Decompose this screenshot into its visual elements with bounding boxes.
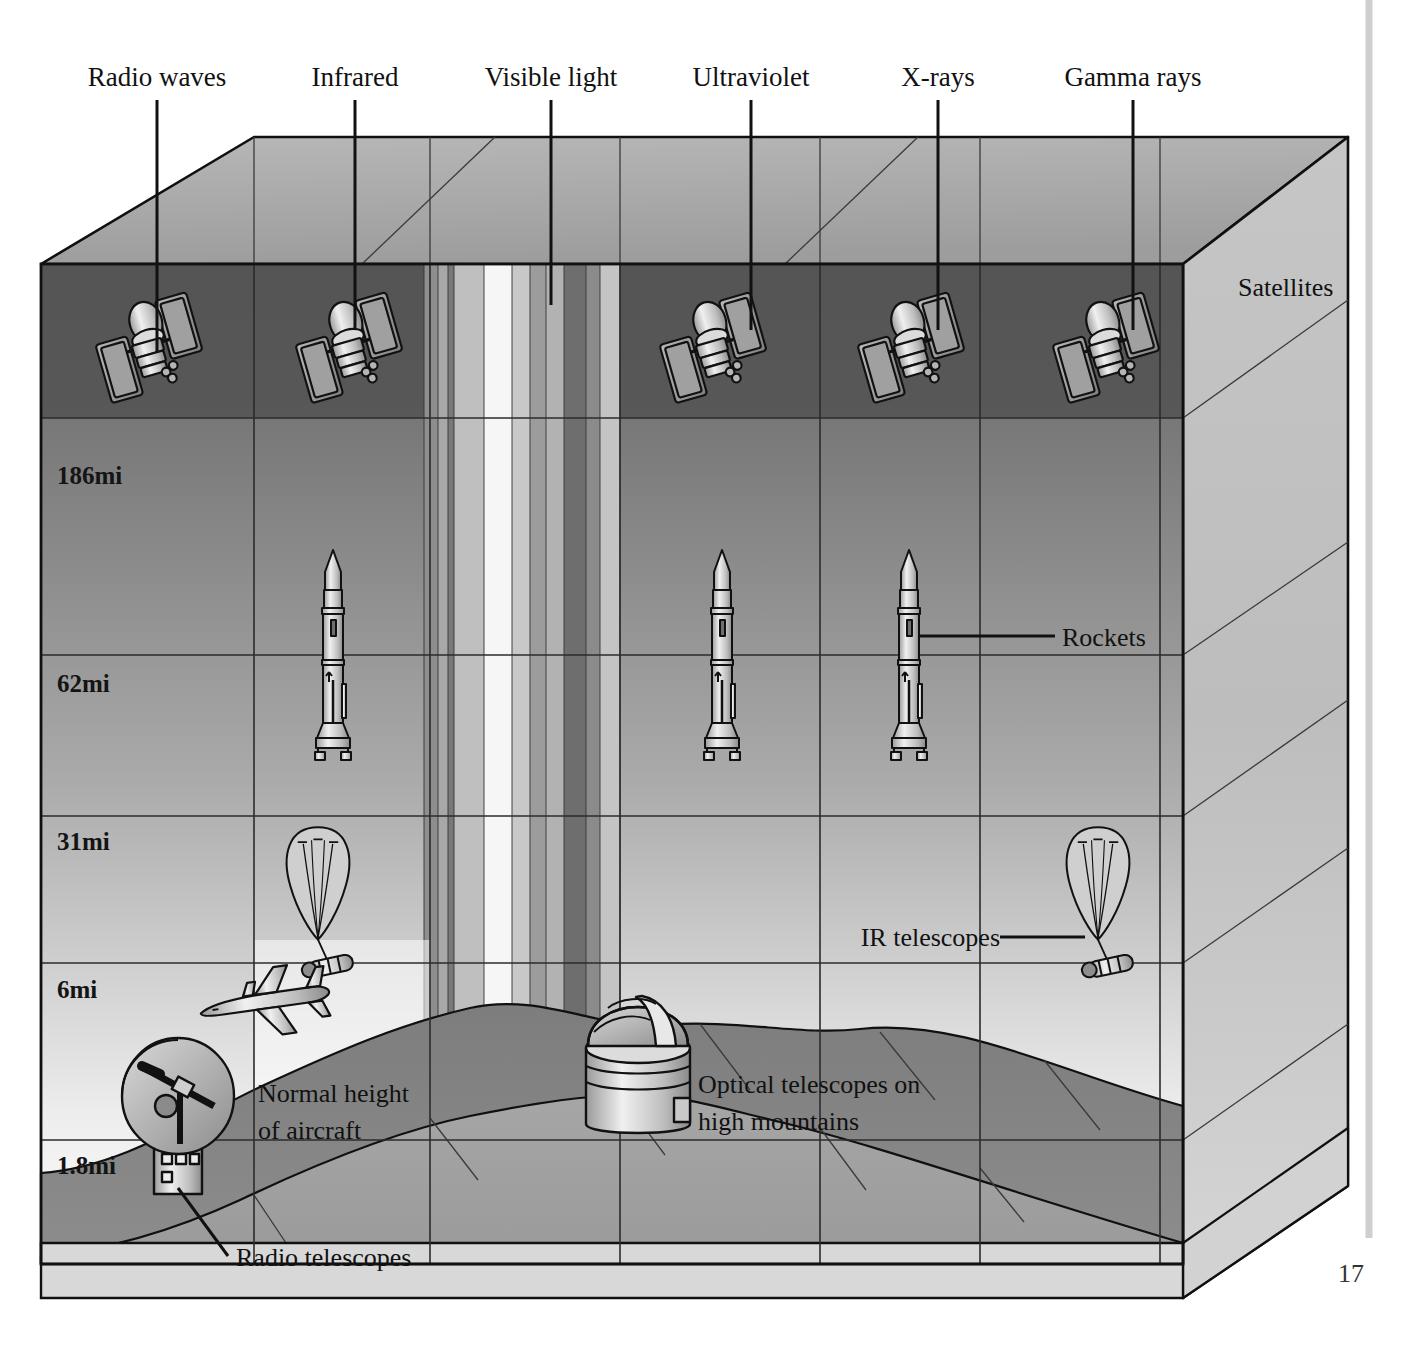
callout-satellites: Satellites <box>1238 273 1333 302</box>
altitude-tick-6mi: 6mi <box>57 976 97 1003</box>
altitude-tick-186mi: 186mi <box>57 462 122 489</box>
page-number: 17 <box>1338 1259 1364 1288</box>
spectrum-label-xrays: X-rays <box>901 62 974 92</box>
callout-optical-telescopes-line2: high mountains <box>698 1107 859 1136</box>
callout-aircraft-line1: Normal height <box>258 1079 410 1108</box>
box-side-face <box>1183 137 1348 1298</box>
altitude-tick-1-8mi: 1.8mi <box>57 1152 116 1179</box>
figure-canvas: Radio waves Infrared Visible light Ultra… <box>0 0 1408 1356</box>
spectrum-label-ultraviolet: Ultraviolet <box>693 62 810 92</box>
callout-optical-telescopes-line1: Optical telescopes on <box>698 1070 920 1099</box>
altitude-tick-31mi: 31mi <box>57 828 110 855</box>
callout-radio-telescopes: Radio telescopes <box>236 1243 411 1272</box>
callout-rockets: Rockets <box>1062 623 1146 652</box>
spectrum-label-gamma-rays: Gamma rays <box>1064 62 1201 92</box>
atmospheric-windows-diagram: Radio waves Infrared Visible light Ultra… <box>0 0 1408 1356</box>
callout-ir-telescopes: IR telescopes <box>861 923 1000 952</box>
box-top-face <box>41 137 1348 264</box>
altitude-tick-62mi: 62mi <box>57 670 110 697</box>
spectrum-label-radio-waves: Radio waves <box>88 62 227 92</box>
spectrum-label-visible-light: Visible light <box>485 62 618 92</box>
spectrum-label-infrared: Infrared <box>312 62 399 92</box>
callout-aircraft-line2: of aircraft <box>258 1116 362 1145</box>
